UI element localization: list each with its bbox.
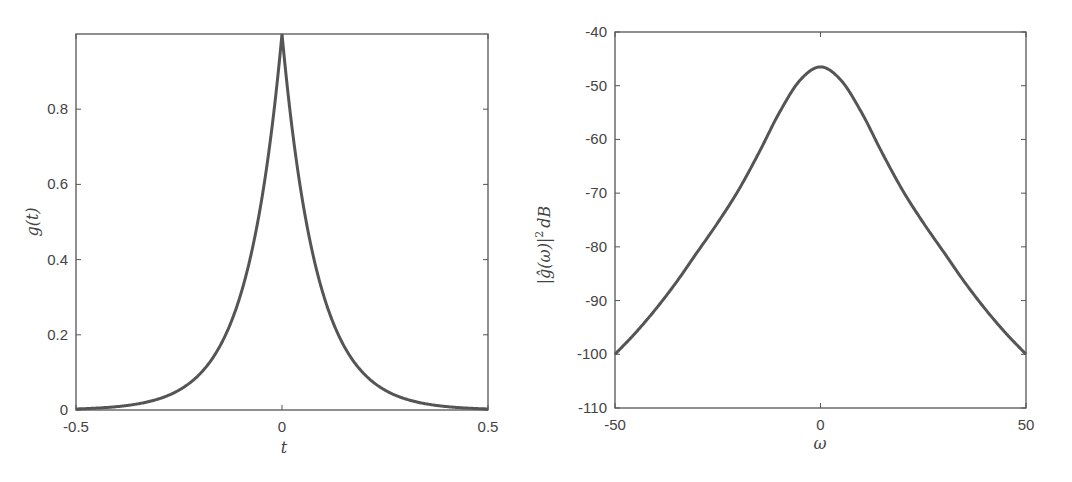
y-tick-label: 0.6 (47, 175, 68, 192)
y-tick-label: 0 (60, 401, 68, 418)
y-tick-label: -110 (578, 399, 607, 416)
y-axis-label-unit: dB (535, 205, 554, 227)
y-axis-label-main: |ĝ(ω)| (535, 238, 554, 285)
axes-frame (76, 34, 488, 410)
y-tick-label: -40 (585, 23, 607, 40)
y-tick-label: -60 (585, 130, 607, 147)
tick-marks (76, 34, 488, 410)
y-tick-label: -80 (585, 238, 607, 255)
x-tick-label: 0 (278, 418, 286, 435)
figure: 00.20.40.60.8 -0.500.5 t g(t) -40-50-60-… (0, 0, 1072, 482)
time-domain-plot: 00.20.40.60.8 -0.500.5 t g(t) (23, 34, 498, 457)
y-axis-label: g(t) (23, 207, 42, 236)
y-tick-label: 0.8 (47, 100, 68, 117)
x-axis-label: ω (813, 434, 826, 453)
y-tick-labels: 00.20.40.60.8 (47, 100, 68, 418)
tick-marks (615, 32, 1026, 408)
data-line (76, 34, 488, 409)
x-tick-label: 0.5 (478, 418, 499, 435)
data-line (615, 67, 1026, 354)
x-tick-label: -50 (604, 416, 626, 433)
x-tick-label: 0 (816, 416, 824, 433)
x-tick-label: -0.5 (63, 418, 89, 435)
x-tick-label: 50 (1018, 416, 1035, 433)
y-tick-label: 0.4 (47, 251, 68, 268)
axes-frame (615, 32, 1026, 408)
y-axis-label-superscript: 2 (533, 231, 546, 238)
y-tick-label: -70 (585, 184, 607, 201)
y-axis-label: |ĝ(ω)|2dB (533, 205, 554, 284)
x-tick-labels: -50050 (604, 416, 1034, 433)
y-tick-labels: -40-50-60-70-80-90-100-110 (577, 23, 607, 416)
x-axis-label: t (281, 438, 288, 457)
y-tick-label: -90 (585, 292, 607, 309)
y-tick-label: -100 (577, 345, 607, 362)
x-tick-labels: -0.500.5 (63, 418, 498, 435)
frequency-domain-plot: -40-50-60-70-80-90-100-110 -50050 ω |ĝ(ω… (533, 23, 1034, 453)
y-tick-label: 0.2 (47, 326, 68, 343)
y-tick-label: -50 (585, 77, 607, 94)
